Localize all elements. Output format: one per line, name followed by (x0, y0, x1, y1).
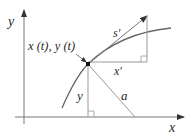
curve-point (86, 62, 90, 66)
a-label: a (121, 88, 128, 103)
tangent-vector (88, 16, 147, 64)
point-pointer-arrow (76, 54, 86, 62)
y-height-label: y (75, 88, 83, 103)
x-axis-label: x (168, 120, 176, 135)
right-angle-marker-top (141, 56, 147, 62)
point-label: x (t), y (t) (27, 39, 75, 53)
y-axis-label: y (6, 14, 15, 29)
parametric-curve-diagram: y x x (t), y (t) s′ x′ y a (0, 0, 194, 136)
x-prime-label: x′ (113, 64, 122, 78)
a-segment (88, 64, 135, 117)
s-prime-label: s′ (113, 26, 121, 40)
right-angle-marker-bottom (88, 111, 94, 117)
